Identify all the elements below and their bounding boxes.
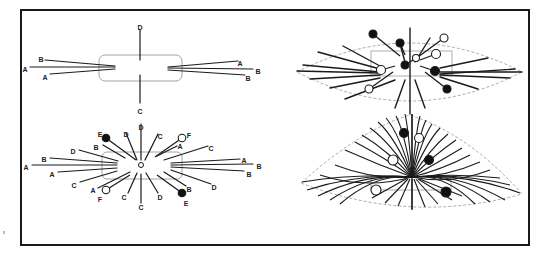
fiber-label: A	[177, 143, 182, 150]
fiber-line	[440, 58, 488, 68]
kinetochore-label: F	[187, 132, 192, 139]
diagram-svg: DCBAAABB DDCBDBAACACCDBACABBDEFFE	[0, 0, 545, 262]
fiber-line	[50, 158, 117, 163]
open-kinetochore-icon	[432, 50, 441, 59]
fiber-line	[412, 176, 505, 200]
panel-bottom-right-fan-spindle	[301, 114, 522, 210]
kinetochore-fiber	[157, 175, 182, 193]
filled-kinetochore-icon	[396, 39, 404, 47]
fiber-line	[171, 159, 240, 163]
fiber-line	[395, 80, 405, 108]
open-kinetochore-icon	[365, 85, 373, 93]
fiber-label: B	[255, 68, 260, 75]
open-kinetochore-icon	[440, 34, 448, 42]
fiber-line	[345, 150, 412, 177]
fiber-label: C	[137, 108, 142, 115]
fiber-line	[58, 168, 117, 172]
fiber-label: C	[71, 182, 76, 189]
fiber-label: A	[42, 74, 47, 81]
fiber-label: C	[138, 204, 143, 211]
fiber-line	[80, 171, 117, 182]
fiber-label: A	[49, 171, 54, 178]
panel-top-right-spindle	[297, 28, 522, 114]
fiber-label: C	[121, 194, 126, 201]
kinetochore-label: E	[184, 200, 189, 207]
kinetochore-label: F	[98, 196, 103, 203]
fiber-label: A	[22, 66, 27, 73]
fiber-label: B	[93, 144, 98, 151]
fiber-line	[146, 173, 158, 193]
fiber-label: D	[123, 131, 128, 138]
fiber-line	[168, 70, 245, 75]
open-kinetochore-icon	[178, 134, 186, 142]
fiber-label: D	[70, 148, 75, 155]
fiber-line	[440, 75, 510, 78]
fiber-label: A	[90, 187, 95, 194]
filled-kinetochore-icon	[369, 30, 377, 38]
filled-kinetochore-icon	[431, 67, 440, 76]
fiber-line	[171, 164, 253, 165]
fiber-line	[45, 60, 115, 66]
filled-kinetochore-icon	[102, 134, 110, 142]
fiber-line	[171, 170, 211, 184]
open-kinetochore-icon	[415, 134, 424, 143]
fiber-line	[103, 145, 125, 158]
fiber-label: D	[138, 124, 143, 131]
fiber-line	[343, 46, 380, 66]
open-kinetochore-icon	[377, 66, 386, 75]
filled-kinetochore-icon	[441, 187, 451, 197]
fiber-label: A	[241, 157, 246, 164]
open-kinetochore-icon	[102, 186, 110, 194]
fiber-line	[164, 146, 208, 160]
fiber-line	[310, 75, 380, 79]
fiber-label: D	[211, 184, 216, 191]
fiber-label: A	[237, 60, 242, 67]
panel-bottom-left-radial-array: DDCBDBAACACCDBACABBDEFFE	[23, 124, 261, 211]
pole-center-icon	[139, 163, 144, 168]
figure-canvas: DCBAAABB DDCBDBAACACCDBACABBDEFFE	[0, 0, 545, 262]
fiber-label: C	[157, 133, 162, 140]
filled-kinetochore-icon	[425, 156, 434, 165]
fiber-label: D	[137, 24, 142, 31]
fiber-label: B	[38, 56, 43, 63]
fiber-label: B	[246, 171, 251, 178]
fiber-label: D	[157, 194, 162, 201]
filled-kinetochore-icon	[401, 61, 409, 69]
fiber-line	[415, 80, 425, 108]
open-kinetochore-icon	[413, 55, 420, 62]
fiber-label: B	[41, 156, 46, 163]
filled-kinetochore-icon	[443, 85, 451, 93]
fiber-line	[168, 61, 238, 67]
fiber-label: C	[208, 145, 213, 152]
open-kinetochore-icon	[388, 155, 398, 165]
panel-top-left-interphase: DCBAAABB	[22, 24, 260, 115]
fiber-line	[335, 165, 412, 178]
fiber-label: B	[256, 163, 261, 170]
filled-kinetochore-icon	[400, 129, 409, 138]
fiber-line	[50, 69, 115, 74]
fiber-label: B	[245, 75, 250, 82]
filled-kinetochore-icon	[178, 189, 186, 197]
fiber-line	[168, 68, 253, 69]
fiber-label: B	[186, 186, 191, 193]
kinetochore-label: E	[98, 131, 103, 138]
fiber-line	[157, 146, 177, 156]
open-kinetochore-icon	[371, 185, 381, 195]
fiber-label: A	[23, 164, 28, 171]
